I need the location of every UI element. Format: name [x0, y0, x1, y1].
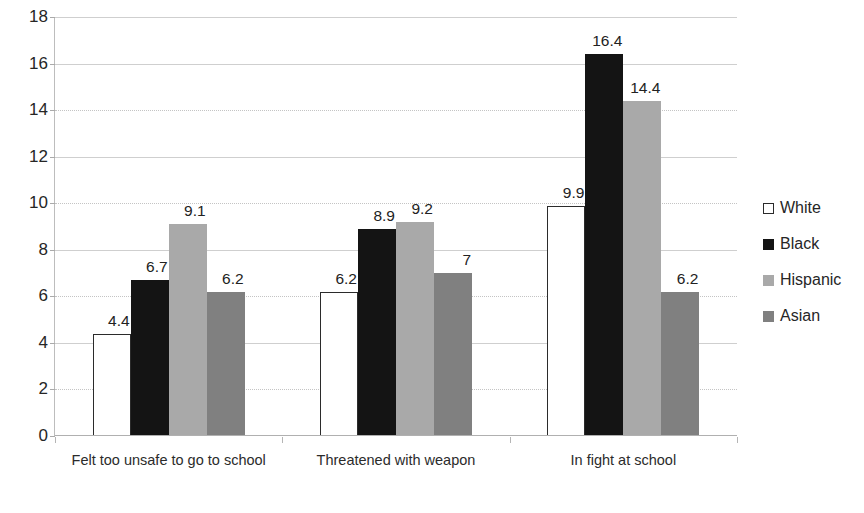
- y-tick-label-14: 14: [4, 101, 48, 118]
- bar-hispanic-cat3: [623, 101, 661, 436]
- bar-black-cat3: [585, 54, 623, 436]
- y-tick-mark-16: [50, 64, 55, 65]
- y-tick-label-8: 8: [4, 241, 48, 258]
- category-label-1: Felt too unsafe to go to school: [55, 450, 282, 471]
- legend-label-white: White: [780, 200, 821, 216]
- bar-white-cat1: [93, 334, 131, 436]
- y-tick-label-4: 4: [4, 334, 48, 351]
- y-tick-mark-14: [50, 110, 55, 111]
- gridline-16: [55, 64, 737, 65]
- bar-label-hispanic-cat3: 14.4: [622, 80, 660, 96]
- legend-label-black: Black: [780, 236, 819, 252]
- category-tick-2: [510, 437, 511, 443]
- legend-label-hispanic: Hispanic: [780, 272, 841, 288]
- bar-asian-cat3: [661, 292, 699, 436]
- bar-label-asian-cat2: 7: [433, 252, 471, 268]
- bar-black-cat2: [358, 229, 396, 436]
- bar-label-asian-cat1: 6.2: [206, 271, 244, 287]
- category-tick-3: [737, 437, 738, 443]
- x-axis-baseline: [55, 435, 737, 436]
- y-tick-mark-8: [50, 250, 55, 251]
- category-tick-1: [282, 437, 283, 443]
- bar-label-asian-cat3: 6.2: [660, 271, 698, 287]
- y-tick-mark-12: [50, 157, 55, 158]
- y-tick-mark-0: [50, 436, 55, 437]
- y-tick-label-2: 2: [4, 380, 48, 397]
- y-tick-label-18: 18: [4, 8, 48, 25]
- legend-item-black[interactable]: Black: [763, 226, 863, 262]
- y-tick-mark-6: [50, 296, 55, 297]
- category-tick-0: [55, 437, 56, 443]
- bar-label-black-cat1: 6.7: [130, 259, 168, 275]
- bar-label-black-cat3: 16.4: [584, 33, 622, 49]
- y-axis-tick-labels: 024681012141618: [0, 0, 48, 513]
- bar-black-cat1: [131, 280, 169, 436]
- y-tick-label-6: 6: [4, 287, 48, 304]
- legend-item-hispanic[interactable]: Hispanic: [763, 262, 863, 298]
- legend-label-asian: Asian: [780, 308, 820, 324]
- y-tick-mark-2: [50, 389, 55, 390]
- bar-hispanic-cat2: [396, 222, 434, 436]
- category-label-3: In fight at school: [510, 450, 737, 471]
- bar-asian-cat2: [434, 273, 472, 436]
- bar-white-cat2: [320, 292, 358, 436]
- asian-swatch: [763, 311, 774, 322]
- white-swatch: [763, 203, 774, 214]
- bar-label-hispanic-cat2: 9.2: [395, 201, 433, 217]
- bar-chart: 024681012141618 4.46.79.16.26.28.99.279.…: [0, 0, 864, 513]
- black-swatch: [763, 239, 774, 250]
- y-tick-label-0: 0: [4, 427, 48, 444]
- bar-white-cat3: [547, 206, 585, 436]
- legend-item-asian[interactable]: Asian: [763, 298, 863, 334]
- y-tick-mark-10: [50, 203, 55, 204]
- bar-asian-cat1: [207, 292, 245, 436]
- gridline-18: [55, 17, 737, 18]
- y-tick-mark-18: [50, 17, 55, 18]
- category-label-2: Threatened with weapon: [282, 450, 509, 471]
- bar-label-black-cat2: 8.9: [357, 208, 395, 224]
- y-tick-mark-4: [50, 343, 55, 344]
- bar-label-white-cat2: 6.2: [319, 271, 357, 287]
- legend-item-white[interactable]: White: [763, 190, 863, 226]
- bar-hispanic-cat1: [169, 224, 207, 436]
- hispanic-swatch: [763, 275, 774, 286]
- y-tick-label-10: 10: [4, 194, 48, 211]
- bar-label-white-cat1: 4.4: [92, 313, 130, 329]
- y-tick-label-12: 12: [4, 148, 48, 165]
- legend: WhiteBlackHispanicAsian: [763, 190, 863, 334]
- bar-label-hispanic-cat1: 9.1: [168, 203, 206, 219]
- y-tick-label-16: 16: [4, 55, 48, 72]
- bar-label-white-cat3: 9.9: [546, 185, 584, 201]
